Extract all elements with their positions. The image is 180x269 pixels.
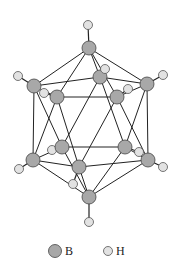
bond-b3-b7	[62, 77, 100, 147]
legend-boron-label: B	[65, 244, 73, 258]
boron-atom-b9	[26, 153, 40, 167]
bond-b1-b2	[34, 48, 89, 86]
boron-atom-b2	[27, 79, 41, 93]
bond-b1-b5	[57, 48, 89, 97]
boron-atom-b6	[110, 90, 124, 104]
legend-hydrogen-label: H	[116, 244, 125, 258]
boron-atom-b8	[118, 140, 132, 154]
bond-b2-b3	[34, 77, 100, 86]
atoms	[14, 21, 168, 227]
legend-boron-swatch	[49, 245, 62, 258]
b12h12-diagram: B H	[0, 0, 180, 269]
boron-atom-b1	[82, 41, 96, 55]
bond-b4-b10	[147, 84, 148, 160]
hydrogen-atom-h4	[159, 71, 168, 80]
hydrogen-atom-h8	[135, 148, 144, 157]
boron-atom-b10	[141, 153, 155, 167]
boron-atom-b4	[140, 77, 154, 91]
legend: B H	[49, 244, 126, 258]
hydrogen-atom-h2	[14, 72, 23, 81]
hydrogen-atom-h3	[101, 65, 110, 74]
boron-atom-b12	[82, 190, 96, 204]
hydrogen-atom-h12	[85, 218, 94, 227]
boron-atom-b5	[50, 90, 64, 104]
hydrogen-atom-h6	[124, 85, 133, 94]
bond-b3-b8	[100, 77, 125, 147]
bond-b2-b9	[33, 86, 34, 160]
hydrogen-atom-h9	[15, 165, 24, 174]
bond-b5-b11	[57, 97, 79, 167]
hydrogen-atom-h10	[159, 163, 168, 172]
boron-atom-b11	[72, 160, 86, 174]
hydrogen-atom-h5	[40, 89, 49, 98]
hydrogen-atom-h11	[69, 180, 78, 189]
boron-atom-b7	[55, 140, 69, 154]
hydrogen-atom-h1	[84, 21, 93, 30]
bond-b12-b8	[89, 147, 125, 197]
legend-hydrogen-swatch	[104, 247, 113, 256]
